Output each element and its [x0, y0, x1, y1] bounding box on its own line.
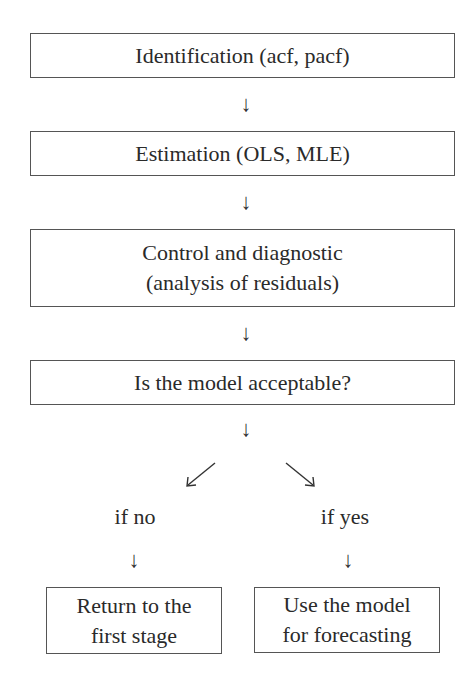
step-identification-box: Identification (acf, pacf): [30, 33, 455, 78]
step-acceptable-label: Is the model acceptable?: [134, 368, 351, 398]
arrow-down-icon: ↓: [231, 418, 261, 440]
step-diagnostic-line1: Control and diagnostic: [142, 238, 342, 268]
outcome-forecast-box: Use the model for forecasting: [254, 587, 440, 653]
step-estimation-box: Estimation (OLS, MLE): [30, 131, 455, 176]
arrow-down-icon: ↓: [231, 322, 261, 344]
arrow-down-left-icon: [180, 460, 220, 490]
arrow-down-icon: ↓: [231, 191, 261, 213]
arrow-down-icon: ↓: [231, 93, 261, 115]
branch-yes-label: if yes: [300, 504, 390, 530]
branch-no-label: if no: [95, 504, 175, 530]
arrow-down-icon: ↓: [119, 549, 149, 571]
step-diagnostic-box: Control and diagnostic (analysis of resi…: [30, 229, 455, 307]
step-estimation-label: Estimation (OLS, MLE): [135, 139, 349, 169]
outcome-forecast-line1: Use the model: [283, 590, 410, 620]
step-diagnostic-line2: (analysis of residuals): [146, 268, 339, 298]
outcome-return-line2: first stage: [91, 621, 177, 651]
arrow-down-icon: ↓: [333, 549, 363, 571]
step-identification-label: Identification (acf, pacf): [135, 41, 349, 71]
outcome-return-line1: Return to the: [77, 591, 192, 621]
arrow-down-right-icon: [283, 460, 323, 490]
step-acceptable-box: Is the model acceptable?: [30, 360, 455, 405]
outcome-forecast-line2: for forecasting: [283, 620, 412, 650]
outcome-return-box: Return to the first stage: [46, 587, 222, 654]
